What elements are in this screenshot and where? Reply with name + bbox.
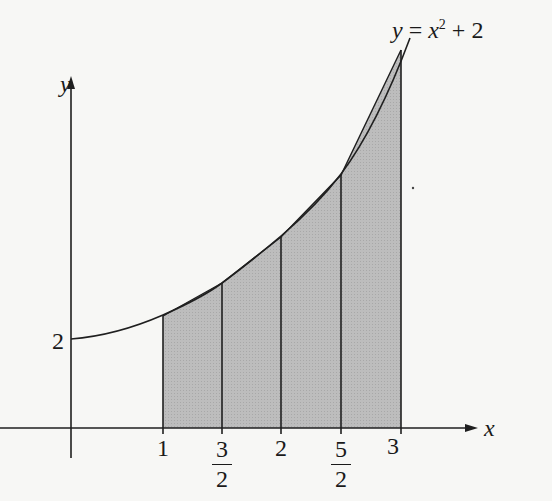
x-tick-label-3: 3 bbox=[387, 434, 399, 458]
fraction-bar bbox=[331, 464, 351, 465]
y-axis-label: y bbox=[60, 72, 71, 96]
eq-y: y bbox=[392, 17, 403, 43]
eq-exponent: 2 bbox=[439, 17, 446, 32]
trapezoid-region bbox=[163, 50, 401, 428]
x-tick-label-1: 1 bbox=[157, 436, 169, 460]
x-tick-label-2: 2 bbox=[275, 436, 287, 460]
trapezoid-2 bbox=[222, 237, 281, 428]
eq-equals: = bbox=[403, 17, 429, 43]
x-tick-label-3-over-2: 3 2 bbox=[212, 437, 232, 491]
x-tick-label-5-over-2: 5 2 bbox=[331, 437, 351, 491]
equation-label: y = x2 + 2 bbox=[392, 18, 483, 42]
stray-dot bbox=[412, 187, 414, 189]
fraction-numerator: 5 bbox=[335, 437, 347, 461]
fraction-bar bbox=[212, 464, 232, 465]
eq-x: x bbox=[428, 17, 439, 43]
trapezoid-4 bbox=[341, 50, 401, 428]
x-axis-label: x bbox=[484, 416, 495, 440]
trapezoid-3 bbox=[281, 175, 341, 428]
x-axis-arrow-icon bbox=[465, 424, 478, 432]
fraction-numerator: 3 bbox=[216, 437, 228, 461]
y-tick-label-2: 2 bbox=[52, 329, 64, 353]
trapezoid-1 bbox=[163, 283, 222, 428]
diagram-canvas bbox=[0, 0, 552, 501]
fraction-denominator: 2 bbox=[335, 467, 347, 491]
fraction-denominator: 2 bbox=[216, 467, 228, 491]
eq-constant: + 2 bbox=[446, 17, 484, 43]
